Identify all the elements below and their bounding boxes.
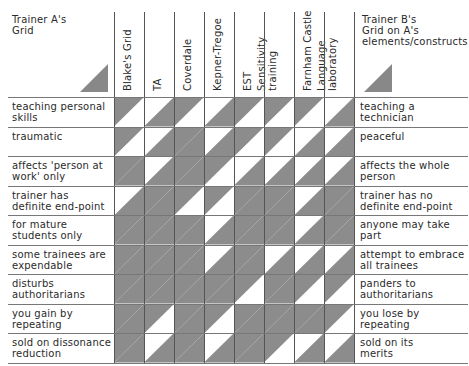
grid-cell	[174, 186, 204, 216]
construct-line: authoritarians	[12, 289, 112, 300]
construct-line: repeating	[12, 319, 112, 330]
construct-line: person	[360, 171, 468, 182]
grid-cell	[114, 333, 144, 363]
grid-cell	[174, 304, 204, 334]
grid-cell	[204, 97, 234, 127]
construct-line: definite end-point	[360, 201, 468, 212]
grid-cell	[264, 127, 294, 157]
construct-line: part	[360, 230, 468, 241]
grid-cell	[264, 156, 294, 186]
grid-cell	[204, 186, 234, 216]
grid-cell	[144, 156, 174, 186]
column-label: Language	[316, 37, 327, 91]
grid-cell	[174, 156, 204, 186]
grid-cell	[264, 304, 294, 334]
construct-line: definite end-point	[12, 201, 112, 212]
left-construct: teaching personalskills	[12, 101, 112, 123]
grid-cell	[204, 215, 234, 245]
left-construct: disturbsauthoritarians	[12, 278, 112, 300]
grid-cell	[324, 127, 354, 157]
construct-line: panders to	[360, 278, 468, 289]
grid-cell	[324, 97, 354, 127]
construct-line: sold on its	[360, 337, 468, 348]
grid-cell	[324, 186, 354, 216]
construct-line: teaching a	[360, 101, 468, 112]
grid-cell	[204, 127, 234, 157]
grid-cell	[264, 186, 294, 216]
construct-line: for mature	[12, 219, 112, 230]
grid-cell	[234, 245, 264, 275]
grid-cell	[114, 274, 144, 304]
grid-cell	[324, 304, 354, 334]
grid-cell	[234, 304, 264, 334]
grid-cell	[114, 127, 144, 157]
construct-line: some trainees are	[12, 249, 112, 260]
grid-divider	[8, 363, 468, 364]
construct-line: teaching personal	[12, 101, 112, 112]
grid-cell	[234, 156, 264, 186]
grid-divider	[8, 215, 468, 216]
grid-cell	[144, 274, 174, 304]
grid-cell	[144, 127, 174, 157]
right-construct: peaceful	[360, 131, 468, 142]
grid-divider	[264, 12, 265, 363]
column-label: Farnham Castle	[302, 10, 313, 91]
grid-cell	[114, 304, 144, 334]
grid-cell	[144, 333, 174, 363]
legend-triangle-right-icon	[364, 64, 392, 92]
column-label: EST	[242, 72, 253, 91]
column-label: TA	[152, 78, 163, 91]
grid-cell	[324, 274, 354, 304]
title-line: Trainer A's	[12, 14, 107, 25]
grid-cell	[264, 274, 294, 304]
left-construct: traumatic	[12, 131, 112, 142]
grid-cell	[234, 274, 264, 304]
grid-divider	[354, 12, 355, 363]
grid-cell	[324, 333, 354, 363]
right-construct: affects the wholeperson	[360, 160, 468, 182]
construct-line: work' only	[12, 171, 112, 182]
grid-cell	[174, 333, 204, 363]
right-construct: teaching atechnician	[360, 101, 468, 123]
grid-cell	[144, 97, 174, 127]
grid-cell	[114, 215, 144, 245]
construct-line: traumatic	[12, 131, 112, 142]
construct-line: sold on dissonance	[12, 337, 112, 348]
grid-cell	[174, 127, 204, 157]
construct-line: disturbs	[12, 278, 112, 289]
column-label: training	[267, 37, 278, 91]
grid-cell	[234, 186, 264, 216]
grid-cell	[294, 245, 324, 275]
construct-line: trainer has	[12, 190, 112, 201]
grid-divider	[174, 12, 175, 363]
column-label: Kepner-Tregoe	[212, 18, 223, 91]
grid-divider	[8, 274, 468, 275]
grid-cell	[294, 97, 324, 127]
construct-line: reduction	[12, 348, 112, 359]
column-label: Sensitivity	[256, 37, 267, 91]
left-construct: for maturestudents only	[12, 219, 112, 241]
right-construct: you lose byrepeating	[360, 308, 468, 330]
grid-divider	[8, 245, 468, 246]
grid-cell	[264, 333, 294, 363]
title-line: Trainer B's	[362, 14, 467, 25]
construct-line: authoritarians	[360, 289, 468, 300]
grid-divider	[8, 186, 468, 187]
grid-cell	[174, 215, 204, 245]
grid-cell	[114, 97, 144, 127]
grid-cell	[234, 127, 264, 157]
grid-divider	[294, 12, 295, 363]
column-label: laboratory	[327, 37, 338, 91]
construct-line: anyone may take	[360, 219, 468, 230]
grid-cell	[174, 274, 204, 304]
column-label: Coverdale	[182, 39, 193, 91]
construct-line: you gain by	[12, 308, 112, 319]
grid-cell	[174, 97, 204, 127]
grid-cell	[294, 186, 324, 216]
construct-line: affects 'person at	[12, 160, 112, 171]
right-construct: panders toauthoritarians	[360, 278, 468, 300]
grid-cell	[144, 215, 174, 245]
grid-divider	[8, 97, 468, 98]
grid-divider	[204, 12, 205, 363]
construct-line: you lose by	[360, 308, 468, 319]
